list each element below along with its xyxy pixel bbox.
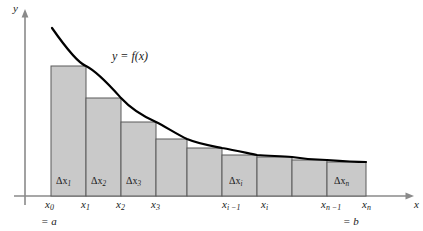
bar-label-delta-xn: Δxn [334, 176, 349, 188]
tick-label-xn: xn [362, 199, 371, 212]
delta-symbol: Δx [91, 175, 102, 186]
bar-label-delta-x2: Δx2 [91, 176, 106, 188]
x-axis-arrowhead [406, 193, 415, 200]
y-axis-label: y [13, 3, 18, 14]
riemann-bar [156, 139, 187, 196]
figure-canvas [0, 0, 423, 231]
delta-sub: 1 [67, 180, 71, 188]
riemann-sum-figure: y x y = f(x) x0 x1 x2 x3 xi −1 xi xn −1 … [0, 0, 423, 231]
tick-sub: 2 [121, 203, 125, 212]
curve-equation-label: y = f(x) [112, 50, 148, 62]
tick-sub: 3 [156, 203, 160, 212]
riemann-bar [257, 157, 292, 196]
tick-sub: 1 [86, 203, 90, 212]
tick-label-x1: x1 [81, 199, 90, 212]
delta-symbol: Δx [229, 175, 240, 186]
delta-symbol: Δx [56, 175, 67, 186]
bar-label-delta-x1: Δx1 [56, 176, 71, 188]
delta-sub: 2 [102, 180, 106, 188]
riemann-bar [292, 160, 327, 196]
delta-symbol: Δx [334, 175, 345, 186]
delta-sub: 3 [137, 180, 141, 188]
riemann-bar [187, 148, 222, 196]
tick-label-xi-minus-1: xi −1 [222, 199, 240, 212]
tick-sub: i −1 [227, 203, 240, 212]
left-endpoint-label: = a [41, 216, 57, 227]
delta-sub: i [240, 180, 242, 188]
tick-sub: n [367, 203, 371, 212]
tick-sub: i [266, 203, 268, 212]
delta-sub: n [345, 180, 349, 188]
y-axis-arrowhead [22, 9, 29, 18]
bar-label-delta-xi: Δxi [229, 176, 242, 188]
tick-sub: 0 [50, 203, 54, 212]
tick-label-x0: x0 [45, 199, 54, 212]
x-axis-label: x [414, 199, 419, 210]
delta-symbol: Δx [126, 175, 137, 186]
bar-label-delta-x3: Δx3 [126, 176, 141, 188]
tick-label-x3: x3 [151, 199, 160, 212]
tick-label-xi: xi [261, 199, 268, 212]
tick-sub: n −1 [326, 203, 341, 212]
tick-label-xn-minus-1: xn −1 [321, 199, 341, 212]
right-endpoint-label: = b [343, 216, 359, 227]
tick-label-x2: x2 [116, 199, 125, 212]
